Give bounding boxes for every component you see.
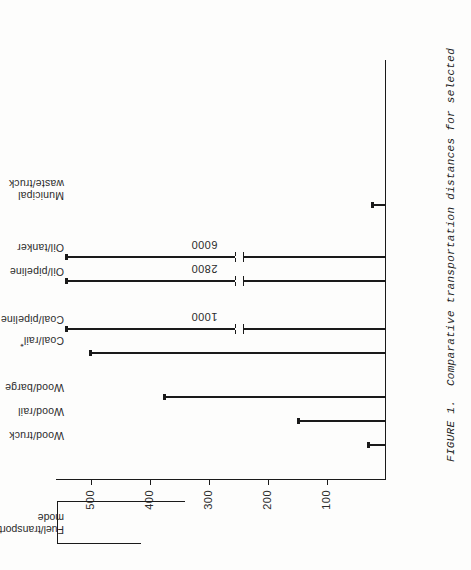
axis-tick [327,479,328,485]
value-axis-line [56,479,386,480]
bar-cap [65,278,68,284]
axis-break-mark [235,252,244,262]
axis-tick [209,479,210,485]
caption-line-1: FIGURE 1. Comparative transportation dis… [441,0,461,470]
category-label: Oil/pipeline [10,266,64,278]
document-page: 100200300400500 100028006000 Wood/truckW… [0,0,471,570]
bar [163,396,385,398]
axis-header-line1: Fuel/transport [0,524,64,536]
category-label: Wood/truck [9,430,64,442]
header-rule-outer [57,543,141,544]
bar-cap [371,202,374,208]
bar-cap [297,418,300,424]
bar-value-label: 6000 [191,239,217,251]
bar-cap [367,442,370,448]
axis-break-mark [235,276,244,286]
bar [89,352,385,354]
axis-tick-label: 400 [143,490,155,520]
category-label: Municipalwaste/truck [9,178,64,201]
axis-break-mark [235,324,244,334]
header-rule-inner [57,501,185,502]
bar-value-label: 2800 [191,263,217,275]
bar [297,420,385,422]
axis-tick [150,479,151,485]
axis-tick [91,479,92,485]
axis-tick-label: 100 [320,490,332,520]
axis-header-line2: mode [38,512,64,524]
bar: 6000 [65,256,385,258]
bar-cap [89,350,92,356]
bar-value-label: 1000 [191,311,217,323]
figure-caption: FIGURE 1. Comparative transportation dis… [401,0,465,570]
axis-tick [268,479,269,485]
bar: 2800 [65,280,385,282]
header-rule-cross [57,501,58,544]
bar [371,204,385,206]
category-label: Wood/rail [18,406,64,418]
bar: 1000 [65,328,385,330]
bar-chart: 100200300400500 100028006000 Wood/truckW… [56,60,386,480]
bar [367,444,385,446]
bar-cap [163,394,166,400]
category-label: Wood/barge [5,382,64,394]
axis-tick-label: 200 [261,490,273,520]
category-label: Coal/rail* [20,334,64,349]
figure-rotated-wrapper: 100200300400500 100028006000 Wood/truckW… [0,0,467,566]
category-axis-line [385,60,386,480]
axis-tick-label: 300 [202,490,214,520]
category-label: Oil/tanker [17,242,64,254]
axis-header-label: Fuel/transport mode [0,512,64,536]
axis-tick-label: 500 [84,490,96,520]
bar-cap [65,326,68,332]
bar-cap [65,254,68,260]
category-label: Coal/pipeline [1,314,64,326]
